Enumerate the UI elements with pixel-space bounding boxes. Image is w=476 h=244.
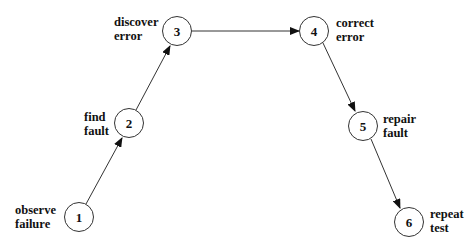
node-number: 1: [76, 210, 83, 225]
node-label-line2: fault: [383, 126, 409, 140]
node-2-find-fault: 2 find fault: [84, 109, 144, 139]
node-label-line2: error: [114, 29, 143, 43]
edge-4-to-5: [323, 43, 355, 111]
node-label-line1: repeat: [430, 207, 465, 221]
node-label-line2: failure: [15, 217, 51, 231]
node-label-line1: find: [84, 110, 106, 124]
node-number: 4: [311, 24, 318, 39]
node-5-repair-fault: 5 repair fault: [349, 112, 417, 141]
node-4-correct-error: 4 correct error: [300, 16, 375, 46]
node-6-repeat-test: 6 repeat test: [395, 207, 465, 237]
node-label-line2: error: [336, 30, 365, 44]
node-label-line1: discover: [114, 15, 159, 29]
node-label-line2: fault: [84, 124, 110, 138]
node-3-discover-error: 3 discover error: [114, 15, 192, 46]
debugging-process-diagram: 1 observe failure 2 find fault 3 discove…: [0, 0, 476, 244]
node-label-line1: repair: [383, 112, 417, 126]
node-1-observe-failure: 1 observe failure: [15, 203, 94, 232]
node-label-line2: test: [430, 221, 450, 235]
node-label-line1: observe: [15, 203, 56, 217]
node-number: 2: [126, 116, 133, 131]
edge-1-to-2: [86, 138, 122, 204]
edge-2-to-3: [136, 46, 170, 110]
node-number: 6: [406, 215, 413, 230]
edge-5-to-6: [371, 139, 400, 208]
node-number: 3: [174, 24, 181, 39]
node-number: 5: [360, 119, 367, 134]
node-label-line1: correct: [336, 16, 375, 30]
